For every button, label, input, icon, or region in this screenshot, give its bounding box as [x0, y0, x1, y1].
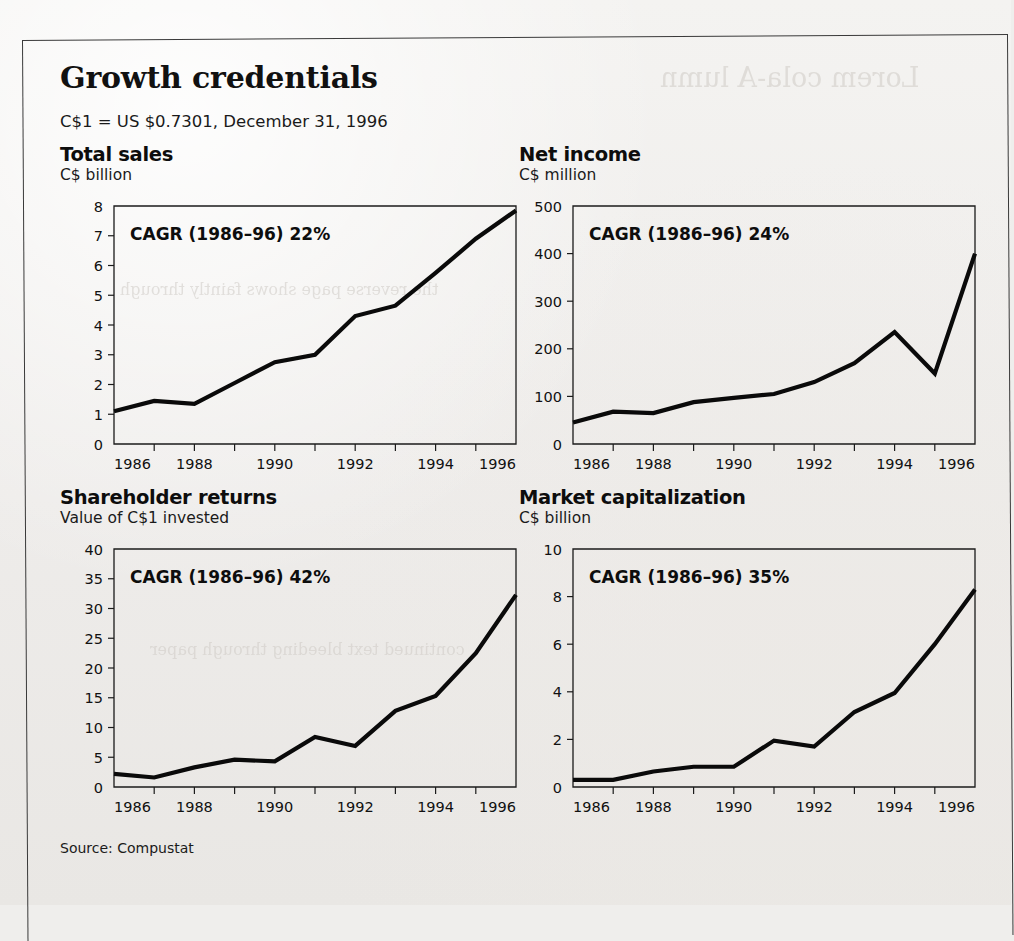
y-axis-tick-label: 25: [85, 631, 103, 647]
y-axis-tick-label: 400: [534, 246, 562, 262]
chart-svg-net-income: 0100200300400500198619881990199219941996…: [519, 192, 979, 482]
y-axis-tick-label: 8: [94, 198, 103, 214]
page-content: Growth credentials C$1 = US $0.7301, Dec…: [22, 40, 1006, 905]
x-axis-tick-label: 1994: [417, 456, 454, 472]
y-axis-tick-label: 8: [553, 589, 562, 605]
x-axis-tick-label: 1994: [417, 799, 454, 815]
panel-total-sales: Total sales C$ billion 01234567819861988…: [60, 145, 510, 482]
y-axis-tick-label: 3: [94, 347, 103, 363]
y-axis-tick-label: 5: [94, 750, 103, 766]
x-axis-tick-label: 1988: [635, 456, 672, 472]
y-axis-tick-label: 6: [94, 258, 103, 274]
chart-subtitle-market-capitalization: C$ billion: [519, 509, 979, 528]
chart-subtitle-total-sales: C$ billion: [60, 166, 510, 185]
chart-title-net-income: Net income: [519, 145, 979, 165]
y-axis-tick-label: 4: [553, 684, 562, 700]
x-axis-tick-label: 1990: [256, 799, 293, 815]
chart-shareholder-returns: 0510152025303540198619881990199219941996…: [60, 535, 510, 825]
x-axis-tick-label: 1996: [479, 799, 516, 815]
x-axis-tick-label: 1996: [938, 456, 975, 472]
cagr-annotation: CAGR (1986–96) 22%: [130, 224, 330, 244]
x-axis-tick-label: 1988: [176, 799, 213, 815]
y-axis-tick-label: 40: [85, 541, 103, 557]
x-axis-tick-label: 1988: [635, 799, 672, 815]
chart-title-shareholder-returns: Shareholder returns: [60, 488, 510, 508]
x-axis-tick-label: 1996: [479, 456, 516, 472]
data-series-line: [573, 589, 975, 779]
x-axis-tick-label: 1994: [876, 456, 913, 472]
y-axis-tick-label: 0: [553, 436, 562, 452]
chart-market-capitalization: 0246810198619881990199219941996CAGR (198…: [519, 535, 979, 825]
y-axis-tick-label: 15: [85, 690, 103, 706]
x-axis-tick-label: 1992: [796, 799, 833, 815]
y-axis-tick-label: 0: [553, 779, 562, 795]
page-title: Growth credentials: [60, 60, 378, 95]
chart-net-income: 0100200300400500198619881990199219941996…: [519, 192, 979, 482]
x-axis-tick-label: 1986: [114, 799, 151, 815]
panel-net-income: Net income C$ million 010020030040050019…: [519, 145, 979, 482]
y-axis-tick-label: 300: [534, 294, 562, 310]
x-axis-tick-label: 1992: [337, 799, 374, 815]
y-axis-tick-label: 4: [94, 317, 103, 333]
x-axis-tick-label: 1986: [573, 456, 610, 472]
x-axis-tick-label: 1990: [256, 456, 293, 472]
x-axis-tick-label: 1990: [715, 799, 752, 815]
x-axis-tick-label: 1986: [114, 456, 151, 472]
y-axis-tick-label: 30: [85, 601, 103, 617]
y-axis-tick-label: 6: [553, 637, 562, 653]
y-axis-tick-label: 2: [553, 732, 562, 748]
chart-subtitle-net-income: C$ million: [519, 166, 979, 185]
x-axis-tick-label: 1996: [938, 799, 975, 815]
y-axis-tick-label: 1: [94, 407, 103, 423]
data-series-line: [573, 253, 975, 422]
data-series-line: [114, 595, 516, 778]
x-axis-tick-label: 1986: [573, 799, 610, 815]
y-axis-tick-label: 5: [94, 288, 103, 304]
chart-svg-shareholder-returns: 0510152025303540198619881990199219941996…: [60, 535, 520, 825]
chart-svg-market-capitalization: 0246810198619881990199219941996CAGR (198…: [519, 535, 979, 825]
source-note: Source: Compustat: [60, 840, 194, 856]
y-axis-tick-label: 10: [85, 720, 103, 736]
y-axis-tick-label: 35: [85, 571, 103, 587]
x-axis-tick-label: 1990: [715, 456, 752, 472]
y-axis-tick-label: 10: [544, 541, 562, 557]
cagr-annotation: CAGR (1986–96) 24%: [589, 224, 789, 244]
chart-title-total-sales: Total sales: [60, 145, 510, 165]
exchange-rate-note: C$1 = US $0.7301, December 31, 1996: [60, 112, 388, 131]
x-axis-tick-label: 1988: [176, 456, 213, 472]
y-axis-tick-label: 200: [534, 341, 562, 357]
x-axis-tick-label: 1994: [876, 799, 913, 815]
y-axis-tick-label: 0: [94, 779, 103, 795]
y-axis-tick-label: 0: [94, 436, 103, 452]
chart-total-sales: 012345678198619881990199219941996CAGR (1…: [60, 192, 510, 482]
chart-svg-total-sales: 012345678198619881990199219941996CAGR (1…: [60, 192, 520, 482]
y-axis-tick-label: 20: [85, 660, 103, 676]
y-axis-tick-label: 7: [94, 228, 103, 244]
y-axis-tick-label: 2: [94, 377, 103, 393]
x-axis-tick-label: 1992: [796, 456, 833, 472]
cagr-annotation: CAGR (1986–96) 35%: [589, 567, 789, 587]
y-axis-tick-label: 500: [534, 198, 562, 214]
panel-market-capitalization: Market capitalization C$ billion 0246810…: [519, 488, 979, 825]
x-axis-tick-label: 1992: [337, 456, 374, 472]
chart-subtitle-shareholder-returns: Value of C$1 invested: [60, 509, 510, 528]
chart-title-market-capitalization: Market capitalization: [519, 488, 979, 508]
y-axis-tick-label: 100: [534, 389, 562, 405]
cagr-annotation: CAGR (1986–96) 42%: [130, 567, 330, 587]
panel-shareholder-returns: Shareholder returns Value of C$1 investe…: [60, 488, 510, 825]
